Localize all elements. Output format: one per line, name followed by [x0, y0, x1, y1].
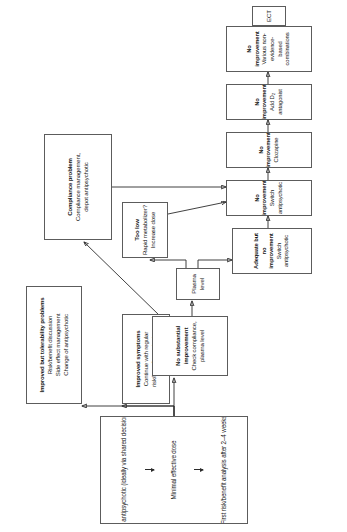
figure-rotation-frame: Choice of antipsychotic (ideally via sha… — [0, 0, 347, 532]
choice-line-1: Choice of antipsychotic (ideally via sha… — [120, 416, 128, 524]
no-improvement-clozapine-node[interactable]: No improvement Clozapine — [226, 132, 312, 168]
choice-of-antipsychotic-node[interactable]: Choice of antipsychotic (ideally via sha… — [100, 416, 248, 524]
compliance-line-2: depot antipsychotic — [82, 162, 90, 211]
no-improve-d2-title: No improvement — [254, 84, 269, 119]
compliance-title: Compliance problem — [66, 158, 74, 216]
no-improve-d2-line-1: Add D2 antagonist — [269, 88, 284, 116]
tolerability-line-1: Risk/benefit discussion — [46, 316, 54, 375]
no-substantial-title: No substantial improvement — [174, 320, 190, 372]
no-improve-switch-line-1: Switch antipsychotic — [269, 182, 284, 214]
tolerability-line-2: Side effect management — [54, 314, 62, 377]
d2-subscript: 2 — [271, 93, 276, 95]
adequate-title: Adequate but no improvement — [253, 232, 276, 270]
no-substantial-improvement-node[interactable]: No substantial improvement Check complia… — [152, 316, 228, 376]
compliance-problem-node[interactable]: Compliance problem Compliance management… — [44, 134, 112, 240]
no-improve-cloz-title: No improvement — [258, 132, 273, 167]
tolerability-title: Improved but tolerability problems — [38, 297, 46, 392]
choice-line-2: Minimal effective dose — [170, 441, 178, 500]
tolerability-line-3: Change of antipsychotic — [62, 314, 70, 376]
arrow-down-2 — [194, 470, 203, 471]
too-low-line-2: Increase dose — [149, 212, 157, 248]
ect-label: ECT — [265, 10, 273, 22]
adequate-but-no-improvement-node[interactable]: Adequate but no improvement Switch antip… — [232, 228, 312, 274]
improved-symptoms-title: Improved symptoms — [134, 330, 142, 387]
too-low-title: Too low — [133, 219, 141, 241]
no-improve-switch-title: No improvement — [254, 180, 269, 215]
ect-node[interactable]: ECT — [252, 6, 286, 26]
no-improve-various-line-1: Various non-evidence-based combinations — [261, 30, 291, 68]
compliance-line-1: Compliance management, — [74, 153, 82, 221]
too-low-line-1: Rapid metabolizer? — [141, 205, 149, 255]
no-improvement-various-node[interactable]: No improvement Various non-evidence-base… — [226, 26, 312, 72]
too-low-node[interactable]: Too low Rapid metabolizer? Increase dose — [122, 202, 168, 258]
arrow-down-1 — [145, 470, 154, 471]
improved-but-tolerability-problems-node[interactable]: Improved but tolerability problems Risk/… — [26, 286, 82, 404]
plasma-level-node[interactable]: Plasma level — [176, 268, 220, 300]
improved-symptoms-line-1: Continue with regular — [142, 332, 150, 386]
no-improve-various-title: No improvement — [246, 30, 261, 68]
no-improve-cloz-line-1: Clozapine — [273, 138, 281, 163]
choice-line-3: First risk/benefit analysis after 2–4 we… — [220, 416, 228, 524]
adequate-line-1: Switch antipsychotic — [276, 232, 291, 270]
flowchart-canvas: Choice of antipsychotic (ideally via sha… — [0, 0, 347, 532]
no-substantial-line-1: Check compliance, plasma level — [190, 320, 206, 372]
no-improvement-d2-node[interactable]: No improvement Add D2 antagonist — [226, 84, 312, 120]
plasma-level-label: Plasma level — [190, 272, 206, 296]
no-improvement-switch-node[interactable]: No improvement Switch antipsychotic — [226, 180, 312, 216]
no-improve-d2-prefix: Add D — [269, 95, 275, 111]
no-improve-d2-suffix: antagonist — [277, 89, 283, 115]
